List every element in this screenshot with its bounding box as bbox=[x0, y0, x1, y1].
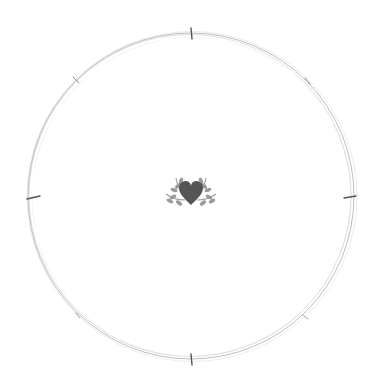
circle-frame bbox=[0, 0, 381, 390]
tick-4-30 bbox=[303, 315, 308, 319]
heart-with-leaves-icon bbox=[166, 178, 216, 206]
tick-6 bbox=[191, 354, 192, 365]
tick-12 bbox=[191, 28, 192, 39]
heart-shape bbox=[179, 181, 203, 205]
